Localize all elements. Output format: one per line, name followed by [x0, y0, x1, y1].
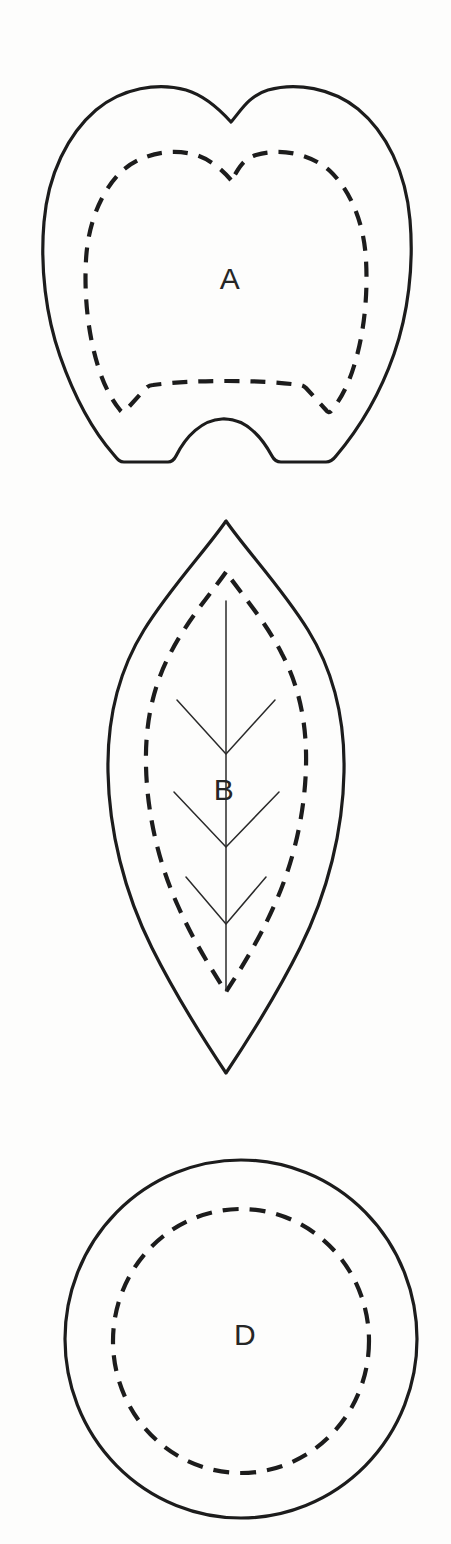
figure-a-drawing: A	[0, 0, 451, 500]
figure-b-label: B	[214, 773, 235, 806]
figure-b-drawing: B	[0, 500, 451, 1100]
figure-d-drawing: D	[0, 1100, 451, 1544]
figure-d-label: D	[234, 1318, 256, 1351]
figure-a-label: A	[220, 262, 241, 295]
figure-sheet: A B D	[0, 0, 451, 1544]
